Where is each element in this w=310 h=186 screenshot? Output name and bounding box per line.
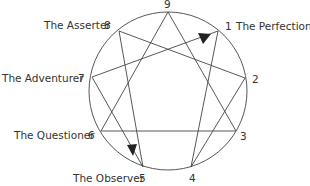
edge-7-1 (92, 31, 218, 77)
point-9-number: 9 (164, 0, 171, 10)
point-5-number: 5 (139, 172, 146, 184)
point-4-number: 4 (189, 172, 196, 184)
point-7-number: 7 (78, 72, 85, 84)
point-1-label: The Perfectionist (235, 20, 310, 32)
point-6-label: The Questioner (13, 129, 95, 141)
point-3-number: 3 (240, 130, 247, 142)
point-2-number: 2 (252, 73, 259, 85)
enneagram-diagram: 9 1 The Perfectionist 2 3 4 The Observer… (0, 0, 310, 186)
point-7-label: The Adventurer (1, 72, 84, 84)
edge-4-2 (191, 78, 245, 167)
enneagram-circle (89, 12, 247, 170)
arrow-7-to-1-icon (198, 33, 211, 44)
point-8-label: The Asserter (43, 19, 111, 31)
point-6-number: 6 (88, 129, 95, 141)
edge-6-9 (101, 12, 168, 131)
point-1-number: 1 (225, 20, 232, 32)
point-8-number: 8 (104, 19, 111, 31)
edge-1-4 (191, 31, 218, 167)
point-5-label: The Observer (72, 172, 145, 184)
